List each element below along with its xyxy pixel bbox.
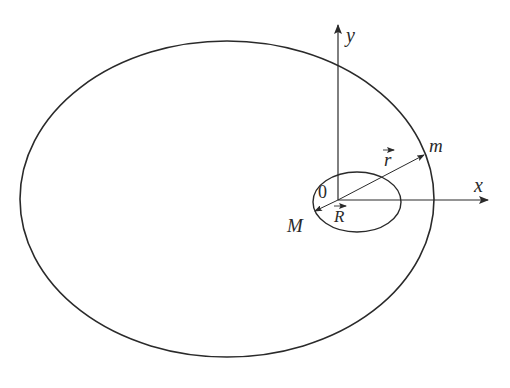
mass-M-label: M bbox=[286, 215, 304, 236]
origin-label: 0 bbox=[318, 182, 327, 202]
y-axis-label: y bbox=[344, 24, 355, 47]
small-orbit bbox=[313, 172, 401, 232]
vector-r-arrow bbox=[338, 155, 424, 200]
x-axis-label: x bbox=[473, 174, 483, 196]
mass-m-label: m bbox=[429, 135, 443, 156]
orbit-diagram: y x 0 m M r R bbox=[0, 0, 510, 388]
vector-r-label: r bbox=[384, 149, 392, 170]
large-orbit bbox=[20, 41, 434, 357]
vector-R-label: R bbox=[333, 207, 345, 226]
